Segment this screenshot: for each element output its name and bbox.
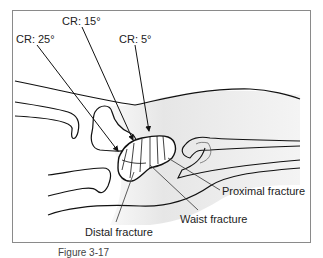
label-cr5: CR: 5° <box>119 33 152 45</box>
label-proximal-fracture: Proximal fracture <box>222 185 305 197</box>
label-waist-fracture: Waist fracture <box>180 213 247 225</box>
first-metacarpal-bone <box>48 168 111 196</box>
metacarpal-bone <box>15 102 79 139</box>
figure-caption: Figure 3-17 <box>58 247 109 258</box>
label-distal-fracture: Distal fracture <box>85 226 153 238</box>
label-cr15: CR: 15° <box>62 15 101 27</box>
label-cr25: CR: 25° <box>16 33 55 45</box>
